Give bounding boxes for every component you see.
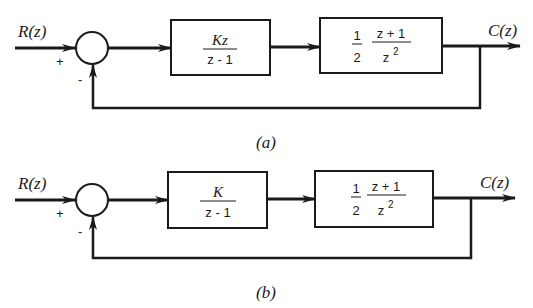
output-label: C(z) — [488, 21, 518, 40]
block2-denominator: z — [378, 203, 385, 218]
block2-numerator: z + 1 — [372, 179, 401, 194]
gain-numerator: 1 — [353, 28, 360, 43]
summing-junction — [76, 32, 108, 64]
input-label: R(z) — [17, 174, 47, 193]
diagram-a: R(z) + - Kz z - 1 1 2 z + 1 z 2 C(z) (a) — [15, 18, 520, 152]
input-label: R(z) — [17, 22, 47, 41]
block1-numerator: Kz — [211, 32, 228, 48]
diagram-b: R(z) + - K z - 1 1 2 z + 1 z 2 C(z) (b) — [15, 171, 515, 302]
minus-sign: - — [78, 72, 82, 87]
output-label: C(z) — [480, 173, 510, 192]
block1-numerator: K — [212, 184, 224, 200]
plus-sign: + — [56, 54, 64, 69]
summing-junction — [76, 184, 108, 216]
block1-denominator: z - 1 — [207, 52, 232, 67]
caption-a: (a) — [256, 133, 276, 152]
block-diagrams: R(z) + - Kz z - 1 1 2 z + 1 z 2 C(z) (a)… — [0, 0, 533, 308]
gain-denominator: 2 — [352, 203, 359, 218]
block2-exponent: 2 — [393, 46, 399, 57]
gain-denominator: 2 — [353, 50, 360, 65]
block1-denominator: z - 1 — [205, 205, 230, 220]
block2-denominator: z — [383, 50, 390, 65]
block2-exponent: 2 — [388, 199, 394, 210]
caption-b: (b) — [256, 283, 276, 302]
minus-sign: - — [78, 224, 82, 239]
gain-numerator: 1 — [352, 181, 359, 196]
block2-numerator: z + 1 — [377, 26, 406, 41]
plus-sign: + — [56, 206, 64, 221]
